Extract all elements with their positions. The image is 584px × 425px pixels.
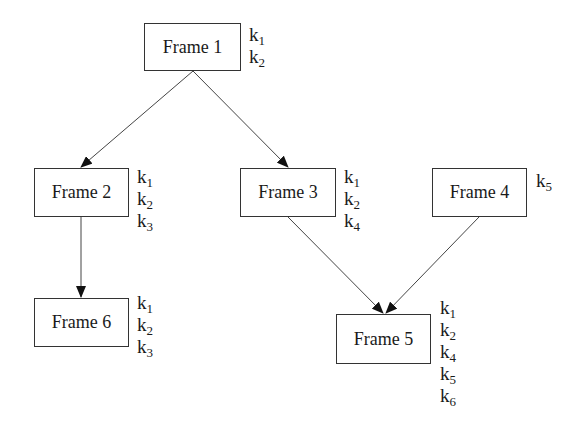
key-label: k4 [440,341,456,363]
frame-2-keys: k1 k2 k3 [137,166,153,232]
frame-2-label: Frame 2 [52,182,111,203]
key-label: k3 [137,210,153,232]
key-label: k2 [137,188,153,210]
key-label: k2 [137,314,153,336]
frame-6-keys: k1 k2 k3 [137,292,153,358]
key-label: k1 [137,292,153,314]
key-label: k2 [249,46,265,68]
frame-1-box: Frame 1 [144,23,241,71]
key-label: k3 [137,336,153,358]
key-label: k1 [344,166,360,188]
frame-5-label: Frame 5 [354,329,413,350]
key-label: k2 [344,188,360,210]
frame-5-box: Frame 5 [336,314,431,364]
key-label: k1 [440,297,456,319]
key-label: k2 [440,319,456,341]
key-label: k5 [536,170,552,192]
edge-frame1-frame3 [193,71,288,167]
frame-2-box: Frame 2 [34,168,129,217]
frame-4-keys: k5 [536,170,552,192]
key-label: k5 [440,363,456,385]
edge-frame3-frame5 [288,217,383,313]
frame-3-box: Frame 3 [240,168,336,217]
frame-6-label: Frame 6 [52,312,111,333]
key-label: k1 [249,24,265,46]
frame-4-box: Frame 4 [432,168,527,217]
frame-3-label: Frame 3 [258,182,317,203]
frame-6-box: Frame 6 [34,298,129,347]
frame-1-keys: k1 k2 [249,24,265,68]
key-label: k6 [440,385,456,407]
frame-5-keys: k1 k2 k4 k5 k6 [440,297,456,407]
key-label: k1 [137,166,153,188]
key-label: k4 [344,210,360,232]
edge-frame4-frame5 [386,217,479,313]
frame-4-label: Frame 4 [450,182,509,203]
edge-frame1-frame2 [81,71,193,167]
frame-1-label: Frame 1 [163,37,222,58]
frame-3-keys: k1 k2 k4 [344,166,360,232]
